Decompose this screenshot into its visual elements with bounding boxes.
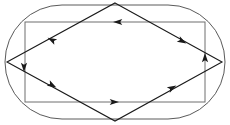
- inner-rectangle: [25, 22, 205, 102]
- geometry-figure: [0, 0, 230, 125]
- diagram-canvas: [0, 0, 230, 125]
- arrowhead-layer: [21, 19, 208, 105]
